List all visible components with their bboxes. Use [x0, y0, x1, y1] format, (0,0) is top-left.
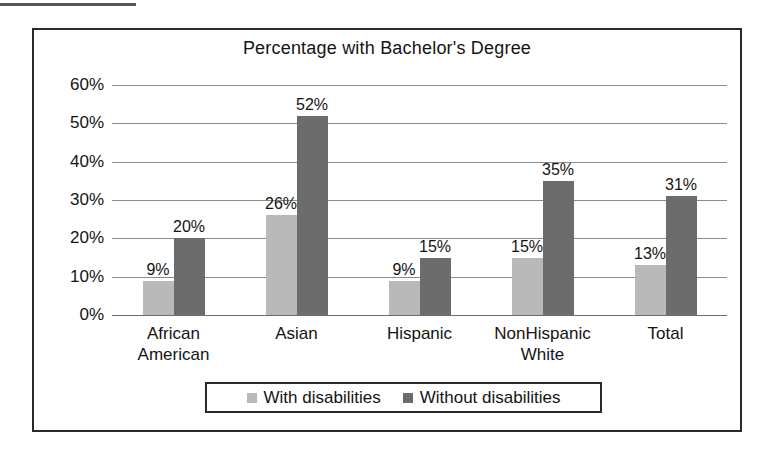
bar-wrapper: 20%	[174, 238, 205, 315]
bar[interactable]: 35%	[543, 181, 574, 315]
bar[interactable]: 13%	[635, 265, 666, 315]
legend-label: With disabilities	[264, 388, 381, 408]
y-tick-label: 10%	[70, 267, 104, 287]
legend-item[interactable]: Without disabilities	[403, 388, 561, 408]
chart-legend: With disabilitiesWithout disabilities	[205, 382, 602, 413]
bar-wrapper: 35%	[543, 181, 574, 315]
bar-group: 15%35%	[481, 85, 604, 315]
bar[interactable]: 26%	[266, 215, 297, 315]
bar-value-label: 35%	[542, 161, 574, 179]
bar-wrapper: 9%	[389, 281, 420, 316]
chart-title: Percentage with Bachelor's Degree	[34, 38, 740, 59]
bar-wrapper: 9%	[143, 281, 174, 316]
category-label: NonHispanic White	[481, 323, 604, 365]
bar-wrapper: 15%	[512, 258, 543, 316]
bar-value-label: 9%	[146, 261, 169, 279]
y-tick-label: 40%	[70, 152, 104, 172]
bar-value-label: 13%	[634, 245, 666, 263]
bar-value-label: 20%	[173, 218, 205, 236]
y-tick-label: 50%	[70, 113, 104, 133]
bar[interactable]: 9%	[389, 281, 420, 316]
y-tick-label: 30%	[70, 190, 104, 210]
bar-wrapper: 15%	[420, 258, 451, 316]
bar-group: 26%52%	[235, 85, 358, 315]
y-tick-label: 0%	[79, 305, 104, 325]
legend-label: Without disabilities	[420, 388, 561, 408]
chart-frame: Percentage with Bachelor's Degree 60%50%…	[32, 28, 742, 432]
bar[interactable]: 31%	[666, 196, 697, 315]
bar-value-label: 52%	[296, 96, 328, 114]
bar[interactable]: 15%	[420, 258, 451, 316]
bar-value-label: 31%	[665, 176, 697, 194]
bar-wrapper: 13%	[635, 265, 666, 315]
bar-value-label: 15%	[511, 238, 543, 256]
plot-area: 60%50%40%30%20%10%0% 9%20%26%52%9%15%15%…	[112, 85, 727, 315]
bars-layer: 9%20%26%52%9%15%15%35%13%31%	[112, 85, 727, 315]
bar-wrapper: 26%	[266, 215, 297, 315]
scan-artifact-line	[0, 3, 136, 6]
category-label: Hispanic	[358, 323, 481, 344]
category-label: Total	[604, 323, 727, 344]
legend-swatch-icon	[403, 393, 413, 403]
bar-group: 9%20%	[112, 85, 235, 315]
bar[interactable]: 20%	[174, 238, 205, 315]
bar[interactable]: 15%	[512, 258, 543, 316]
legend-swatch-icon	[247, 393, 257, 403]
y-tick-label: 60%	[70, 75, 104, 95]
bar-wrapper: 31%	[666, 196, 697, 315]
bar[interactable]: 52%	[297, 116, 328, 315]
bar-group: 9%15%	[358, 85, 481, 315]
gridline-0	[112, 315, 727, 316]
legend-item[interactable]: With disabilities	[247, 388, 381, 408]
category-label: Asian	[235, 323, 358, 344]
bar-wrapper: 52%	[297, 116, 328, 315]
bar[interactable]: 9%	[143, 281, 174, 316]
bar-value-label: 15%	[419, 238, 451, 256]
category-label: African American	[112, 323, 235, 365]
bar-value-label: 26%	[265, 195, 297, 213]
bar-value-label: 9%	[392, 261, 415, 279]
bar-group: 13%31%	[604, 85, 727, 315]
y-tick-label: 20%	[70, 228, 104, 248]
